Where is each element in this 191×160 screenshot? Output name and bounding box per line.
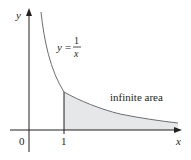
curve-y-equals-1-over-x [41, 12, 178, 123]
x-axis-label: x [175, 135, 181, 147]
region-label: infinite area [110, 91, 163, 103]
x-tick-label-1: 1 [61, 135, 67, 147]
y-axis-arrow-icon [26, 8, 32, 16]
function-label-numerator: 1 [74, 35, 79, 46]
origin-label: 0 [19, 135, 25, 147]
function-label-equals: = [65, 41, 71, 53]
y-axis-label: y [15, 9, 21, 21]
function-label-lhs: y [56, 41, 62, 53]
diagram-canvas: y x 0 1 y = 1 x infinite area [0, 0, 191, 160]
function-label-denominator: x [73, 48, 79, 59]
